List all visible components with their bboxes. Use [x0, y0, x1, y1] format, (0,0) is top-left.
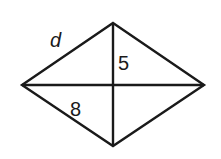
label-5: 5	[118, 52, 129, 74]
label-8: 8	[70, 98, 81, 120]
side-label-d: d	[50, 29, 62, 51]
rhombus-diagram: d 5 8	[0, 0, 221, 159]
